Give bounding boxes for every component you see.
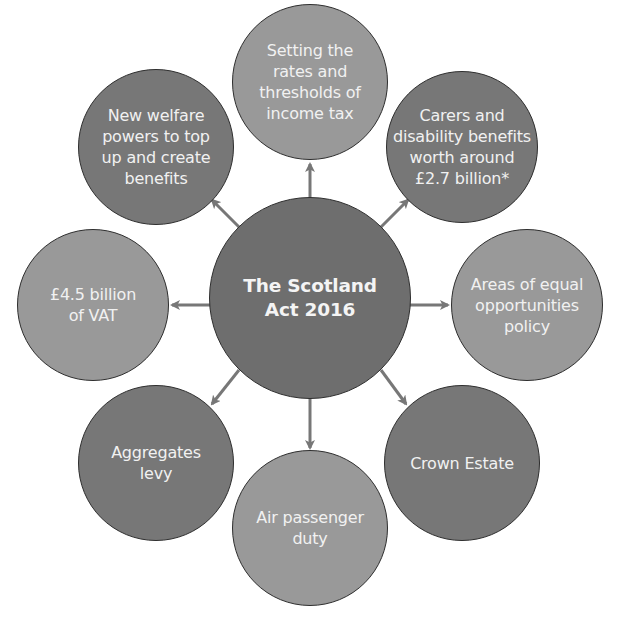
node-label: Areas of equal opportunities policy (471, 274, 583, 337)
node-crown-estate: Crown Estate (384, 385, 540, 541)
arrow-up-left-icon (212, 200, 239, 227)
node-label: Aggregates levy (111, 442, 201, 484)
node-label: New welfare powers to top up and create … (102, 105, 211, 189)
node-air-passenger-duty: Air passenger duty (232, 450, 388, 606)
arrow-down-right-icon (381, 370, 406, 404)
node-vat: £4.5 billion of VAT (17, 229, 169, 381)
node-label: Setting the rates and thresholds of inco… (259, 40, 361, 124)
node-label: Air passenger duty (256, 507, 364, 549)
node-label: £4.5 billion of VAT (50, 284, 136, 326)
node-label: Crown Estate (410, 453, 514, 474)
arrow-up-right-icon (381, 200, 408, 227)
center-node-scotland-act: The Scotland Act 2016 (209, 197, 411, 399)
node-equal-opportunities: Areas of equal opportunities policy (451, 229, 603, 381)
node-aggregates-levy: Aggregates levy (78, 385, 234, 541)
node-income-tax: Setting the rates and thresholds of inco… (232, 4, 388, 160)
node-carers-disability: Carers and disability benefits worth aro… (386, 71, 538, 223)
node-welfare-powers: New welfare powers to top up and create … (78, 69, 234, 225)
arrow-down-left-icon (212, 370, 239, 404)
scotland-act-diagram: The Scotland Act 2016 Setting the rates … (0, 0, 620, 629)
center-label: The Scotland Act 2016 (243, 274, 376, 322)
node-label: Carers and disability benefits worth aro… (393, 105, 531, 189)
